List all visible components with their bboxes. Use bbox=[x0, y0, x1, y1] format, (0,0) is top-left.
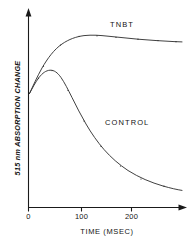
data-point bbox=[175, 41, 176, 42]
data-point bbox=[115, 37, 116, 38]
data-point bbox=[78, 36, 79, 37]
y-axis bbox=[26, 8, 32, 208]
data-point bbox=[43, 66, 44, 67]
series-label-tnbt: TNBT bbox=[110, 20, 134, 29]
series-curve-control bbox=[30, 70, 183, 190]
data-point bbox=[67, 90, 68, 91]
x-axis bbox=[29, 205, 188, 211]
data-point bbox=[38, 78, 39, 79]
data-point bbox=[140, 178, 141, 179]
x-axis-arrow-icon bbox=[179, 205, 188, 211]
tnbt-curve-path bbox=[30, 35, 183, 93]
x-tick-label-200: 200 bbox=[125, 212, 138, 221]
control-curve-path bbox=[30, 70, 183, 190]
y-axis-title: 515 nm ABSORPTION CHANGE bbox=[13, 61, 22, 176]
data-point bbox=[137, 39, 138, 40]
x-axis-title: TIME (MSEC) bbox=[80, 227, 133, 236]
x-tick-label-100: 100 bbox=[75, 212, 88, 221]
data-point bbox=[120, 165, 121, 166]
x-axis-ticks bbox=[29, 208, 132, 212]
series-label-control: CONTROL bbox=[105, 118, 149, 127]
data-point bbox=[163, 186, 164, 187]
y-axis-arrow-icon bbox=[26, 8, 32, 17]
x-tick-label-0: 0 bbox=[26, 212, 30, 221]
absorption-change-plot: 0 100 200 TIME (MSEC) 515 nm ABSORPTION … bbox=[0, 0, 193, 244]
data-point bbox=[96, 35, 97, 36]
data-point bbox=[83, 120, 84, 121]
data-point bbox=[157, 40, 158, 41]
figure-container: 0 100 200 TIME (MSEC) 515 nm ABSORPTION … bbox=[0, 0, 193, 244]
data-point bbox=[100, 146, 101, 147]
series-curve-tnbt bbox=[30, 35, 183, 93]
data-point bbox=[60, 44, 61, 45]
data-point bbox=[51, 70, 52, 71]
